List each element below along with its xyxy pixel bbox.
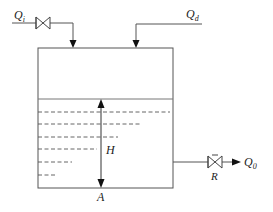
dashed-level-lines	[38, 112, 170, 175]
tank	[38, 48, 173, 188]
outlet-valve-icon	[208, 155, 222, 168]
outlet-arrow-icon	[232, 159, 241, 166]
arrow-down-icon	[98, 179, 105, 188]
arrow-up-icon	[98, 99, 105, 108]
inlet-arrow-icon	[70, 40, 77, 48]
outlet-pipe	[173, 159, 241, 166]
disturbance-label: Qd	[186, 7, 200, 23]
inlet-valve-icon	[36, 17, 50, 29]
inlet-pipe	[12, 23, 77, 48]
disturbance-pipe	[133, 24, 203, 48]
area-label: A	[96, 190, 105, 204]
height-label: H	[105, 143, 116, 157]
tank-diagram: Qi Qd Q0 H A R	[0, 0, 273, 212]
disturbance-arrow-icon	[133, 40, 140, 48]
inflow-label: Qi	[14, 8, 25, 24]
resistance-label: R	[210, 170, 218, 182]
outflow-label: Q0	[244, 155, 257, 171]
